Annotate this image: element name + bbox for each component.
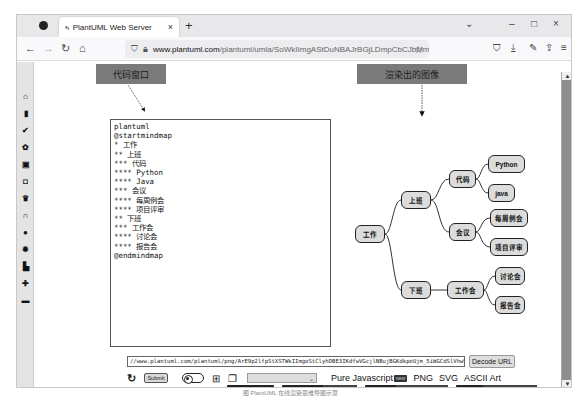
pure-javascript-link[interactable]: Pure Javascript xyxy=(331,373,393,383)
split-view-icon[interactable]: ⊞ xyxy=(212,373,220,384)
code-line: * 工作 xyxy=(114,140,327,149)
pen-icon[interactable]: ✔ xyxy=(21,126,30,135)
share-icon[interactable]: ⇪ xyxy=(545,42,553,53)
figure-caption: 图 PlantUML 在线渲染思维导图示意 xyxy=(0,388,581,396)
url-domain: www.plantuml.com xyxy=(153,45,220,54)
palette-icon[interactable]: ● xyxy=(21,228,30,237)
code-line: @startmindmap xyxy=(114,131,327,140)
close-window-button[interactable]: × xyxy=(553,18,559,29)
chart-icon[interactable]: ▙ xyxy=(21,262,30,271)
tab-title: PlantUML Web Server xyxy=(73,23,168,32)
chevron-down-icon: ⌄ xyxy=(309,375,314,382)
headphones-icon[interactable]: ∩ xyxy=(21,211,30,220)
code-line: **** Java xyxy=(114,177,327,186)
example-select[interactable]: ⌄ xyxy=(247,373,317,383)
code-line: ** 下班 xyxy=(114,214,327,223)
copy-icon[interactable]: ❐ xyxy=(228,373,237,384)
back-button[interactable]: ← xyxy=(25,42,36,54)
scroll-down-arrow-icon[interactable]: ▼ xyxy=(562,380,572,388)
page-scrollbar[interactable]: ▲ ▼ xyxy=(561,72,572,388)
shield-icon[interactable]: ◘ xyxy=(21,177,30,186)
tracking-shield-icon[interactable]: ⛉ xyxy=(131,44,138,55)
mindmap-node-java: java xyxy=(488,184,515,202)
mindmap-node-shangban: 上班 xyxy=(401,191,431,209)
submit-button[interactable]: Submit xyxy=(144,373,168,383)
lightbulb-icon[interactable]: ✿ xyxy=(21,143,30,152)
mindmap-node-xiaban: 下班 xyxy=(401,281,431,299)
new-tab-button[interactable]: + xyxy=(185,18,193,33)
mindmap-node-root: 工作 xyxy=(355,225,385,243)
forward-button[interactable]: → xyxy=(43,42,54,54)
code-line: ** 上班 xyxy=(114,150,327,159)
pocket-icon[interactable]: ⛉ xyxy=(493,42,501,54)
crown-icon[interactable]: ♛ xyxy=(21,194,30,203)
tab-plantuml[interactable]: ᵃᵢ PlantUML Web Server × xyxy=(59,17,179,37)
page-content: 代码窗口 渲染出的图像 xyxy=(35,62,559,388)
plantuml-favicon-icon: ᵃᵢ xyxy=(65,24,69,31)
mindmap-node-gongzuohui: 工作会 xyxy=(447,281,484,299)
mindmap-node-taolun: 讨论会 xyxy=(495,267,525,285)
tab-close-icon[interactable]: × xyxy=(168,22,173,32)
theme-toggle[interactable] xyxy=(182,373,204,383)
mindmap-node-baogao: 报告会 xyxy=(495,296,525,314)
list-tabs-icon[interactable]: ⌄ xyxy=(465,18,473,29)
png-link[interactable]: PNG xyxy=(413,373,433,383)
home-icon[interactable]: ⌂ xyxy=(21,92,30,101)
code-line: **** 项目评审 xyxy=(114,205,327,214)
svg-link[interactable]: SVG xyxy=(439,373,458,383)
gear-icon[interactable]: ✹ xyxy=(21,245,30,254)
extensions-icon[interactable]: ✎ xyxy=(529,42,537,53)
code-line: *** 工作会 xyxy=(114,223,327,232)
mindmap-node-python: Python xyxy=(488,155,525,173)
home-button[interactable]: ⌂ xyxy=(79,42,86,54)
code-line: **** 讨论会 xyxy=(114,232,327,241)
lock-icon[interactable]: 🔒︎ xyxy=(143,44,148,55)
reload-button[interactable]: ↻ xyxy=(61,42,70,55)
download-icon[interactable]: ⤓ xyxy=(511,42,515,54)
code-line: **** Python xyxy=(114,168,327,177)
mindmap-node-huiyi: 会议 xyxy=(449,223,476,241)
code-line: plantuml xyxy=(114,122,327,131)
code-line: *** 会议 xyxy=(114,186,327,195)
address-bar[interactable]: ⛉ 🔒︎ www.plantuml.com /plantuml/umla/SoW… xyxy=(125,40,429,58)
browser-window: ᵃᵢ PlantUML Web Server × + ⌄ – □ × ← → ↻… xyxy=(16,14,572,388)
code-line: **** 报告会 xyxy=(114,242,327,251)
code-editor[interactable]: plantuml@startmindmap* 工作** 上班*** 代码****… xyxy=(110,119,331,347)
code-line: **** 每周例会 xyxy=(114,196,327,205)
encoded-url-input[interactable]: //www.plantuml.com/plantuml/png/ArE9p2lf… xyxy=(127,356,465,367)
url-path: /plantuml/umla/SoWkIImgAStDuNBAJrBGjLDmp… xyxy=(220,45,429,54)
mindmap-node-xiangmu: 项目评审 xyxy=(490,238,528,256)
mindmap-node-meizhou: 每周例会 xyxy=(490,209,528,227)
new-badge: NEW xyxy=(394,375,407,382)
bookmark-star-icon[interactable]: ☆ xyxy=(414,44,423,55)
minimize-button[interactable]: – xyxy=(509,18,515,29)
code-line: *** 代码 xyxy=(114,159,327,168)
controls-row: ↻ Submit ⊞ ❐ ⌄ Pure Javascript NEW PNG S… xyxy=(127,371,501,385)
navigation-bar: ← → ↻ ⌂ ⛉ 🔒︎ www.plantuml.com /plantuml/… xyxy=(17,37,571,61)
monitor-icon[interactable]: ▬ xyxy=(21,296,30,305)
sidebar: ⌂ ▮ ✔ ✿ ▣ ◘ ♛ ∩ ● ✹ ▙ ✚ ▬ xyxy=(17,62,34,388)
scroll-up-arrow-icon[interactable]: ▲ xyxy=(562,72,572,80)
ascii-art-link[interactable]: ASCII Art xyxy=(464,373,501,383)
code-line: @endmindmap xyxy=(114,251,327,260)
maximize-button[interactable]: □ xyxy=(531,18,537,29)
app-icon[interactable] xyxy=(39,21,48,30)
media-icon[interactable]: ▣ xyxy=(21,160,30,169)
bookmark-icon[interactable]: ▮ xyxy=(21,109,30,118)
menu-icon[interactable]: ≡ xyxy=(561,42,567,53)
refresh-icon[interactable]: ↻ xyxy=(127,372,136,385)
mindmap-node-daima: 代码 xyxy=(449,170,476,188)
plus-icon[interactable]: ✚ xyxy=(21,279,30,288)
tab-strip: ᵃᵢ PlantUML Web Server × + ⌄ – □ × xyxy=(17,15,571,37)
decode-url-button[interactable]: Decode URL xyxy=(469,355,515,368)
